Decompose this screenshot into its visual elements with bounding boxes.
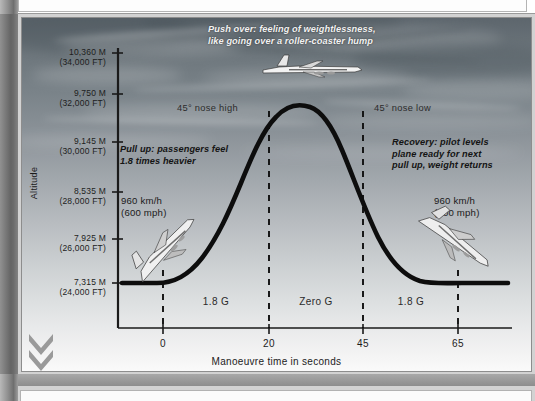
left-rail-shadow: [0, 14, 18, 374]
y-tick-label: 10,360 M (34,000 FT): [21, 47, 106, 67]
plot-area: 10,360 M (34,000 FT) 9,750 M (32,000 FT)…: [22, 18, 531, 371]
label-nose-high: 45° nose high: [177, 103, 238, 113]
annotation-push-over-line2: like going over a roller-coaster hump: [208, 36, 458, 48]
annotation-recovery-line1: Recovery: pilot levels: [392, 137, 532, 149]
double-chevron-down-icon[interactable]: [26, 330, 56, 372]
y-tick-label: 9,750 M (32,000 FT): [21, 88, 106, 108]
y-tick-label: 7,925 M (26,000 FT): [21, 233, 106, 253]
zone-label-pullup: 1.8 G: [203, 296, 229, 307]
speed-label-left-line1: 960 km/h: [121, 195, 167, 207]
bottom-shadow-strip: [18, 374, 535, 386]
page-root: 10,360 M (34,000 FT) 9,750 M (32,000 FT)…: [0, 0, 535, 401]
annotation-recovery-line3: pull up, weight returns: [392, 160, 532, 172]
y-tick-label: 7,315 M (24,000 FT): [21, 277, 106, 297]
airplane-climbing-icon: [126, 214, 212, 286]
x-tick-label: 20: [263, 338, 275, 349]
annotation-pull-up-line2: 1.8 times heavier: [120, 156, 290, 168]
zone-label-zerog: Zero G: [299, 296, 333, 307]
x-tick-label: 0: [160, 338, 166, 349]
label-nose-low: 45° nose low: [374, 103, 431, 113]
annotation-push-over-line1: Push over: feeling of weightlessness,: [208, 24, 458, 36]
left-rail: [0, 0, 18, 401]
bottom-panel-edge: [20, 390, 532, 401]
y-axis-title: Altitude: [29, 153, 39, 213]
airplane-descending-icon: [408, 204, 498, 284]
x-axis-title: Manoeuvre time in seconds: [22, 356, 531, 367]
zone-label-recovery: 1.8 G: [398, 296, 424, 307]
annotation-push-over: Push over: feeling of weightlessness, li…: [208, 24, 458, 47]
airplane-level-icon: [259, 52, 365, 82]
top-white-strip: [0, 0, 535, 14]
annotation-recovery: Recovery: pilot levels plane ready for n…: [392, 137, 532, 172]
x-tick-label: 45: [357, 338, 369, 349]
top-panel-edge: [18, 0, 527, 12]
chart-card: 10,360 M (34,000 FT) 9,750 M (32,000 FT)…: [21, 17, 532, 372]
x-tick-label: 65: [452, 338, 464, 349]
annotation-pull-up: Pull up: passengers feel 1.8 times heavi…: [120, 144, 290, 167]
annotation-recovery-line2: plane ready for next: [392, 149, 532, 161]
annotation-pull-up-line1: Pull up: passengers feel: [120, 144, 290, 156]
